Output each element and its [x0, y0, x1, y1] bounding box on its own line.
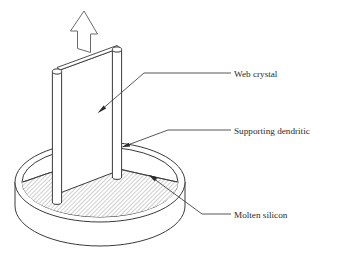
pull-direction-arrow [71, 11, 98, 53]
left-dendrite [52, 69, 61, 205]
dendritic-web-diagram: Web crystal Supporting dendritic Molten … [0, 0, 343, 279]
figure-canvas: Web crystal Supporting dendritic Molten … [0, 0, 343, 279]
web-ribbon [57, 46, 120, 194]
molten-silicon-surface [0, 130, 343, 240]
right-dendrite [112, 47, 121, 180]
label-web-crystal: Web crystal [234, 69, 278, 79]
right-dendrite-cap [112, 47, 121, 52]
label-supporting-dendritic: Supporting dendritic [234, 126, 310, 136]
label-molten-silicon: Molten silicon [234, 210, 288, 220]
left-dendrite-cap [52, 69, 61, 74]
